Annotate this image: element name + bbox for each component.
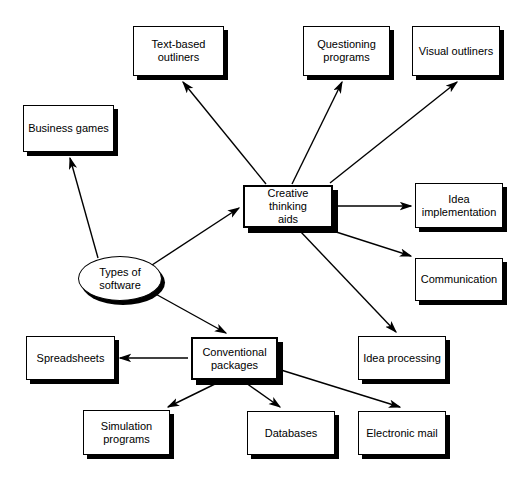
node-spreadsheets[interactable]: Spreadsheets [26,336,115,380]
node-label-communication: Communication [421,273,497,286]
node-questioning-programs[interactable]: Questioning programs [303,26,390,76]
node-label-questioning-programs: Questioning programs [317,38,376,64]
node-databases[interactable]: Databases [247,411,335,455]
node-idea-processing[interactable]: Idea processing [358,336,446,380]
node-creative-thinking-aids[interactable]: Creative thinking aids [243,185,333,228]
node-visual-outliners[interactable]: Visual outliners [412,26,500,76]
node-layer: Types of softwareBusiness gamesCreative … [0,0,525,482]
node-label-simulation-programs: Simulation programs [101,420,152,446]
node-label-conventional-packages: Conventional packages [202,346,266,372]
node-conventional-packages[interactable]: Conventional packages [191,337,278,380]
node-text-based-outliners[interactable]: Text-based outliners [133,26,224,76]
node-label-spreadsheets: Spreadsheets [37,352,105,365]
node-label-idea-implementation: Idea implementation [422,193,497,219]
node-idea-implementation[interactable]: Idea implementation [415,183,503,228]
node-label-types-of-software: Types of software [99,266,141,292]
node-electronic-mail[interactable]: Electronic mail [358,411,446,455]
node-simulation-programs[interactable]: Simulation programs [83,410,170,455]
node-label-creative-thinking-aids: Creative thinking aids [249,187,327,226]
node-business-games[interactable]: Business games [23,105,114,152]
node-communication[interactable]: Communication [415,258,503,301]
node-label-text-based-outliners: Text-based outliners [152,38,206,64]
node-label-visual-outliners: Visual outliners [419,45,493,58]
node-label-electronic-mail: Electronic mail [366,427,438,440]
node-label-business-games: Business games [28,122,109,135]
node-types-of-software[interactable]: Types of software [78,256,162,301]
concept-map-diagram: Types of softwareBusiness gamesCreative … [0,0,525,482]
node-label-idea-processing: Idea processing [363,352,441,365]
node-label-databases: Databases [265,427,318,440]
